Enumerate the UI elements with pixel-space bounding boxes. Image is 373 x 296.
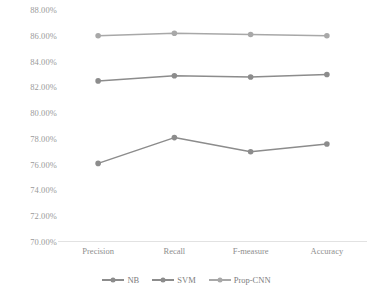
legend-label: SVM: [177, 275, 195, 285]
y-axis-tick-label: 84.00%: [5, 57, 57, 67]
y-axis-tick-label: 86.00%: [5, 31, 57, 41]
data-point: [324, 141, 330, 147]
series-layer: [60, 10, 365, 242]
legend-marker-icon: [102, 279, 124, 281]
x-axis-tick-label: Recall: [164, 246, 186, 256]
x-axis-baseline: [58, 241, 367, 242]
series-svm: [95, 72, 329, 84]
data-point: [95, 161, 101, 167]
y-axis-tick-label: 72.00%: [5, 211, 57, 221]
line-chart: 88.00%86.00%84.00%82.00%80.00%78.00%76.0…: [0, 0, 373, 296]
x-axis-tick-labels: PrecisionRecallF-measureAccuracy: [60, 246, 365, 262]
x-axis-tick-label: F-measure: [233, 246, 269, 256]
legend-marker-icon: [209, 279, 231, 281]
data-point: [172, 30, 178, 36]
data-point: [95, 33, 101, 39]
data-point: [172, 135, 178, 141]
data-point: [324, 72, 330, 78]
y-axis-tick-label: 82.00%: [5, 82, 57, 92]
y-axis-tick-label: 78.00%: [5, 134, 57, 144]
legend-item-svm[interactable]: SVM: [152, 275, 195, 285]
x-axis-tick-label: Accuracy: [311, 246, 344, 256]
legend-label: Prop-CNN: [234, 275, 271, 285]
data-point: [172, 73, 178, 79]
y-axis-tick-label: 76.00%: [5, 160, 57, 170]
series-line: [98, 33, 327, 36]
series-line: [98, 138, 327, 164]
y-axis-tick-label: 88.00%: [5, 5, 57, 15]
data-point: [324, 33, 330, 39]
data-point: [95, 78, 101, 84]
y-axis-tick-label: 80.00%: [5, 108, 57, 118]
y-axis-tick-label: 70.00%: [5, 237, 57, 247]
series-prop-cnn: [95, 30, 329, 38]
data-point: [248, 74, 254, 80]
plot-area: [60, 10, 365, 242]
legend-label: NB: [127, 275, 139, 285]
series-line: [98, 74, 327, 80]
data-point: [248, 149, 254, 155]
x-axis-tick-label: Precision: [82, 246, 114, 256]
chart-legend: NBSVMProp-CNN: [0, 272, 373, 288]
legend-marker-icon: [152, 279, 174, 281]
legend-item-nb[interactable]: NB: [102, 275, 139, 285]
y-axis-tick-labels: 88.00%86.00%84.00%82.00%80.00%78.00%76.0…: [0, 0, 57, 296]
data-point: [248, 32, 254, 38]
legend-item-prop-cnn[interactable]: Prop-CNN: [209, 275, 271, 285]
y-axis-tick-label: 74.00%: [5, 185, 57, 195]
series-nb: [95, 135, 329, 166]
